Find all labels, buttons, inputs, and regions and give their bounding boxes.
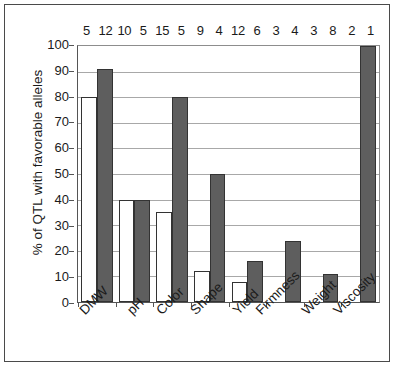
qtl-count-value: 5 [134, 21, 153, 41]
bar-group[interactable] [229, 46, 267, 302]
bar-gray[interactable] [172, 97, 188, 302]
qtl-count-value: 12 [229, 21, 248, 41]
x-axis-category: Viscosity [342, 305, 380, 363]
x-axis-category: Color [153, 305, 191, 363]
bar-group[interactable] [341, 46, 379, 302]
qtl-count-value: 4 [210, 21, 229, 41]
bar-group[interactable] [266, 46, 304, 302]
y-axis-tick-mark [69, 200, 74, 201]
qtl-count-value: 15 [153, 21, 172, 41]
bar-white[interactable] [156, 212, 172, 302]
qtl-count-value: 12 [96, 21, 115, 41]
qtl-count-value: 5 [172, 21, 191, 41]
y-axis-tick-labels: 1009080706050403020100 [27, 35, 69, 315]
x-axis-category: Firmness [266, 305, 304, 363]
bar-gray[interactable] [360, 46, 376, 302]
y-axis-tick-label: 20 [27, 245, 69, 257]
y-axis-tick-label: 60 [27, 142, 69, 154]
bar-group[interactable] [304, 46, 342, 302]
y-axis-tick-mark [69, 174, 74, 175]
y-axis-tick-label: 80 [27, 91, 69, 103]
bar-gray[interactable] [97, 69, 113, 302]
qtl-count-pair: 155 [153, 21, 191, 41]
x-axis-category: pH [115, 305, 153, 363]
qtl-count-value: 4 [285, 21, 304, 41]
qtl-count-value: 8 [323, 21, 342, 41]
bar-white[interactable] [119, 200, 135, 302]
qtl-count-row: 51210515594126343821 [77, 21, 380, 41]
qtl-count-value: 6 [247, 21, 266, 41]
qtl-count-value: 5 [77, 21, 96, 41]
x-axis-category-labels: DMWpHColorShapeYieldFirmnessWeightViscos… [77, 305, 380, 363]
qtl-count-value: 3 [266, 21, 285, 41]
qtl-count-pair: 105 [115, 21, 153, 41]
y-axis-tick-label: 50 [27, 168, 69, 180]
bar-group[interactable] [78, 46, 116, 302]
y-axis-tick-mark [69, 148, 74, 149]
bar-group[interactable] [116, 46, 154, 302]
plot-area [77, 45, 380, 303]
bar-white[interactable] [81, 97, 97, 302]
y-axis-tick-label: 0 [27, 297, 69, 309]
y-axis-tick-mark [69, 97, 74, 98]
bar-gray[interactable] [134, 200, 150, 302]
qtl-count-value: 2 [342, 21, 361, 41]
y-axis-tick-label: 70 [27, 116, 69, 128]
bar-group[interactable] [191, 46, 229, 302]
chart-figure: 51210515594126343821 % of QTL with favor… [4, 4, 390, 362]
qtl-count-value: 1 [361, 21, 380, 41]
qtl-count-pair: 126 [229, 21, 267, 41]
bar-group[interactable] [153, 46, 191, 302]
qtl-count-value: 9 [191, 21, 210, 41]
y-axis-tick-mark [69, 45, 74, 46]
y-axis-tick-mark [69, 251, 74, 252]
y-axis-tick-mark [69, 277, 74, 278]
qtl-count-pair: 34 [266, 21, 304, 41]
qtl-count-value: 10 [115, 21, 134, 41]
y-axis-tick-label: 10 [27, 271, 69, 283]
y-axis-tick-label: 40 [27, 194, 69, 206]
qtl-count-pair: 38 [304, 21, 342, 41]
y-axis-tick-mark [69, 226, 74, 227]
bar-series-container [78, 46, 379, 302]
qtl-count-pair: 94 [191, 21, 229, 41]
y-axis-tick-label: 30 [27, 220, 69, 232]
x-axis-category: DMW [77, 305, 115, 363]
x-axis-category: Shape [191, 305, 229, 363]
qtl-count-pair: 21 [342, 21, 380, 41]
y-axis-tick-mark [69, 122, 74, 123]
y-axis-tick-label: 90 [27, 65, 69, 77]
qtl-count-value: 3 [304, 21, 323, 41]
y-axis-tick-mark [69, 303, 74, 304]
y-axis-tick-mark [69, 71, 74, 72]
qtl-count-pair: 512 [77, 21, 115, 41]
y-axis-tick-label: 100 [27, 39, 69, 51]
